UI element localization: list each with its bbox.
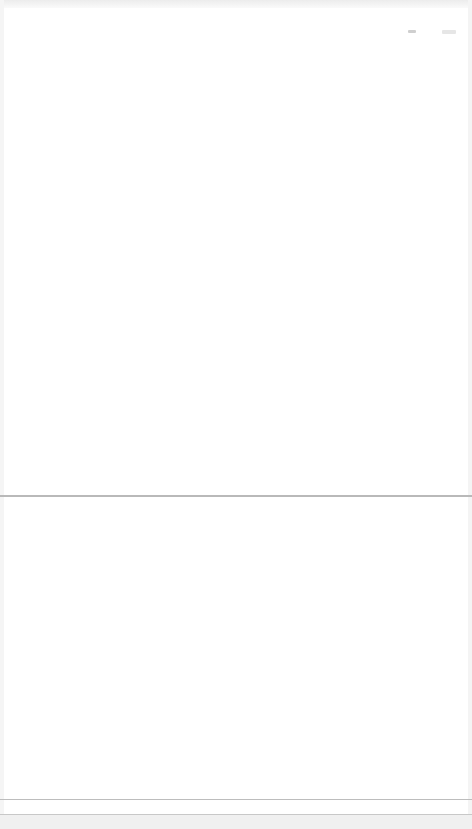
bottom-panel (0, 498, 472, 798)
footer-bar (0, 815, 472, 829)
top-panel (0, 0, 472, 495)
panel-divider[interactable] (0, 495, 472, 497)
footer-divider-top (0, 799, 472, 800)
